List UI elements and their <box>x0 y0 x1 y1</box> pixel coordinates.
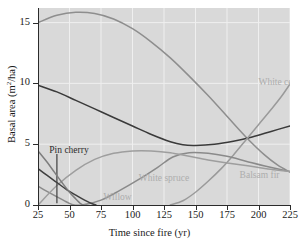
y-tick-label: 0 <box>4 198 30 209</box>
x-axis-title: Time since fire (yr) <box>0 227 299 238</box>
y-axis-title: Basal area (m2/ha) <box>5 19 18 189</box>
figure-container: Trembling aspenPaper birchWhite cedarBal… <box>0 0 299 246</box>
x-tick-label: 50 <box>55 209 85 220</box>
y-tick-mark <box>33 83 38 84</box>
series-line <box>38 169 96 205</box>
x-tick-label: 175 <box>212 209 242 220</box>
y-axis-title-post: /ha) <box>6 65 17 81</box>
y-tick-mark <box>33 144 38 145</box>
y-axis-title-exponent: 2 <box>5 82 13 86</box>
series-label-balsam-fir: Balsam fir <box>240 170 280 180</box>
x-tick-label: 125 <box>149 209 179 220</box>
series-label-white-cedar: White cedar <box>259 77 291 87</box>
x-tick-label: 200 <box>244 209 274 220</box>
x-tick-label: 100 <box>118 209 148 220</box>
x-tick-label: 25 <box>23 209 53 220</box>
plot-area: Trembling aspenPaper birchWhite cedarBal… <box>38 8 290 205</box>
y-axis-line <box>38 8 39 205</box>
series-label-willow: Willow <box>104 192 132 202</box>
x-tick-label: 225 <box>275 209 299 220</box>
x-tick-label: 75 <box>86 209 116 220</box>
x-tick-label: 150 <box>181 209 211 220</box>
series-label-pin-cherry: Pin cherry <box>49 145 88 155</box>
y-tick-mark <box>33 23 38 24</box>
y-axis-title-pre: Basal area (m <box>6 85 17 143</box>
series-label-white-spruce: White spruce <box>139 173 189 183</box>
